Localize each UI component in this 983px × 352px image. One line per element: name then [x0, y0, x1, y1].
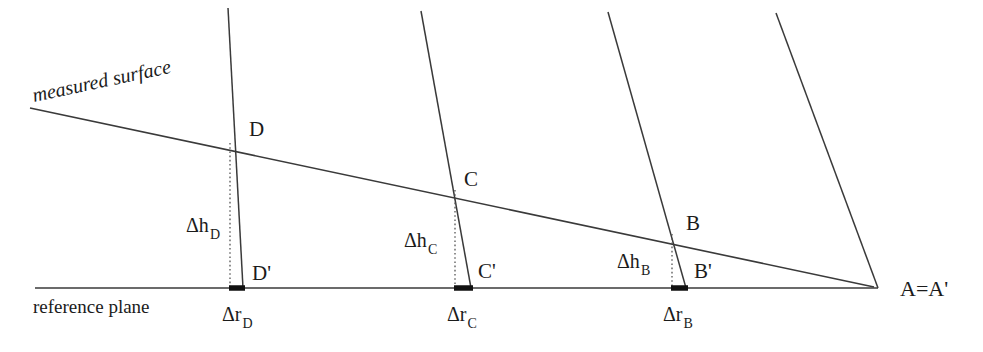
plane-point-label-b: B' [694, 259, 712, 283]
height-label-c: ΔhC [404, 229, 437, 257]
surface-point-label-b: B [686, 211, 700, 235]
height-label-d: ΔhD [186, 214, 220, 242]
height-label-b: ΔhB [617, 250, 650, 278]
surface-point-label-d: D [249, 117, 264, 141]
radial-lines-group [228, 8, 878, 288]
measured-surface-caption: measured surface [30, 55, 173, 107]
station-c: CC'ΔhCΔrC [404, 167, 496, 331]
reference-plane-caption: reference plane [33, 296, 150, 317]
plane-point-label-d: D' [252, 261, 271, 285]
station-b: BB'ΔhBΔrB [617, 211, 712, 331]
radial-label-c: ΔrC [447, 303, 477, 331]
apex-label-a-equals-a-prime: A=A' [900, 276, 948, 301]
radial-b-line [608, 12, 686, 288]
diagram-canvas: DD'ΔhDΔrDCC'ΔhCΔrCBB'ΔhBΔrB measured sur… [0, 0, 983, 352]
plane-point-label-c: C' [478, 259, 496, 283]
radial-a-line [776, 13, 878, 288]
radial-label-b: ΔrB [663, 303, 693, 331]
radial-displacement-figure: DD'ΔhDΔrDCC'ΔhCΔrCBB'ΔhBΔrB measured sur… [0, 0, 983, 352]
stations-group: DD'ΔhDΔrDCC'ΔhCΔrCBB'ΔhBΔrB [186, 117, 712, 331]
radial-label-d: ΔrD [222, 303, 253, 331]
station-d: DD'ΔhDΔrD [186, 117, 271, 331]
measured-surface-line [30, 108, 874, 287]
surface-point-label-c: C [464, 167, 478, 191]
